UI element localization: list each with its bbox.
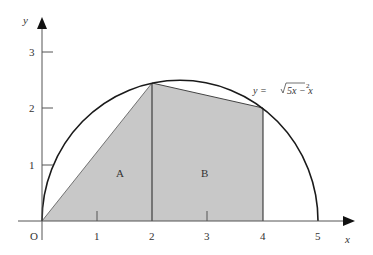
y-tick-label-1: 1 <box>29 159 35 171</box>
x-axis-label: x <box>344 233 350 245</box>
origin-label: O <box>30 230 38 242</box>
trapezium-rule-diagram: O 1 2 3 4 5 x 1 2 3 y A B y = 5x − x 2 <box>0 0 373 255</box>
svg-text:y =: y = <box>252 85 267 96</box>
x-tick-label-1: 1 <box>94 230 100 242</box>
x-tick-label-2: 2 <box>149 230 155 242</box>
x-tick-label-3: 3 <box>204 230 210 242</box>
y-tick-label-3: 3 <box>29 46 35 58</box>
y-axis-arrow-icon <box>37 17 47 29</box>
region-b-label: B <box>201 167 208 179</box>
x-tick-label-5: 5 <box>315 230 321 242</box>
region-a-label: A <box>116 167 124 179</box>
y-axis-label: y <box>22 14 28 26</box>
region-b-shape <box>152 83 263 221</box>
x-tick-label-4: 4 <box>260 230 266 242</box>
x-axis-arrow-icon <box>343 216 355 226</box>
svg-text:2: 2 <box>306 82 310 90</box>
equation-label: y = 5x − x 2 <box>252 82 313 96</box>
y-tick-label-2: 2 <box>29 102 35 114</box>
